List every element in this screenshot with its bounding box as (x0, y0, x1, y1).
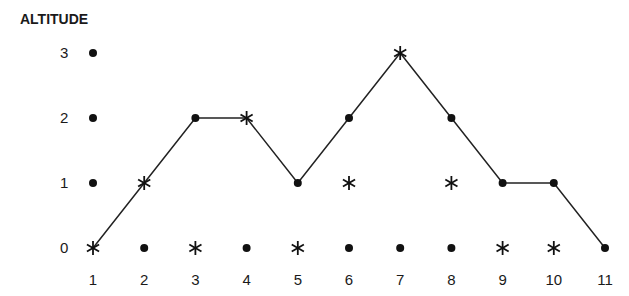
x-tick-label: 10 (545, 271, 562, 288)
dot-marker-icon (550, 179, 558, 187)
x-tick-label: 6 (345, 271, 353, 288)
dot-marker-icon (89, 179, 97, 187)
star-marker-icon (343, 176, 355, 190)
axis-title: ALTITUDE (20, 11, 88, 27)
dot-marker-icon (294, 179, 302, 187)
dot-marker-icon (243, 244, 251, 252)
star-marker-icon (548, 241, 560, 255)
y-tick-label: 1 (60, 174, 68, 191)
y-tick-label: 0 (60, 239, 68, 256)
dot-marker-icon (396, 244, 404, 252)
dot-marker-icon (89, 114, 97, 122)
dot-marker-icon (345, 114, 353, 122)
dot-marker-icon (345, 244, 353, 252)
altitude-path-line (93, 53, 605, 248)
dot-marker-icon (499, 179, 507, 187)
dot-marker-icon (447, 114, 455, 122)
y-tick-label: 2 (60, 109, 68, 126)
star-marker-icon (497, 241, 509, 255)
dot-marker-icon (191, 114, 199, 122)
star-marker-icon (189, 241, 201, 255)
x-tick-label: 8 (447, 271, 455, 288)
dot-marker-icon (140, 244, 148, 252)
star-marker-icon (292, 241, 304, 255)
dot-marker-icon (89, 49, 97, 57)
dot-marker-icon (601, 244, 609, 252)
star-marker-icon (445, 176, 457, 190)
y-tick-label: 3 (60, 44, 68, 61)
x-tick-label: 5 (294, 271, 302, 288)
altitude-diagram: ALTITUDE 0123 1234567891011 (0, 0, 629, 296)
x-tick-label: 3 (191, 271, 199, 288)
x-tick-label: 7 (396, 271, 404, 288)
x-tick-label: 11 (597, 271, 613, 288)
x-tick-label: 4 (242, 271, 250, 288)
x-tick-label: 2 (140, 271, 148, 288)
dot-marker-icon (447, 244, 455, 252)
x-tick-label: 9 (498, 271, 506, 288)
x-tick-label: 1 (89, 271, 97, 288)
